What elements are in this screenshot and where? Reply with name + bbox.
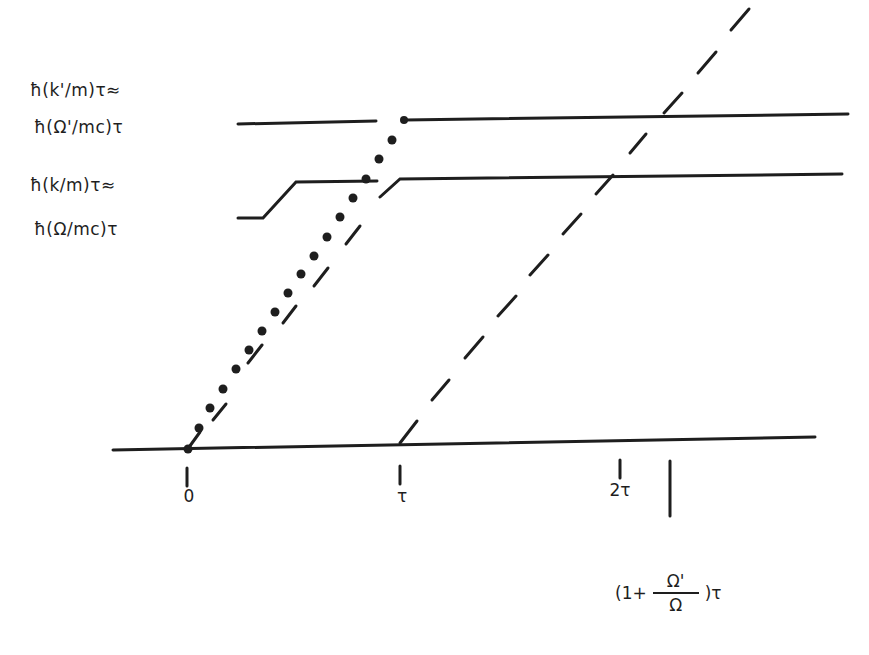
lower-level-label-line1: ħ(k/m)τ≈ [30,175,116,195]
marker-fraction-numerator: Ω' [667,570,685,592]
tick-label-two-tau: 2τ [600,480,640,500]
marker-fraction: Ω' Ω [653,570,699,616]
lower-level-label-line2: ħ(Ω/mc)τ [34,219,118,239]
dotted-ramp-from-zero [184,136,397,454]
marker-fraction-denominator: Ω [669,594,682,616]
marker-label-prefix: (1+ [615,583,647,603]
figure: ħ(k'/m)τ≈ ħ(Ω'/mc)τ ħ(k/m)τ≈ ħ(Ω/mc)τ 0 … [0,0,869,655]
diagram-canvas [0,0,869,655]
marker-label-suffix: )τ [705,583,722,603]
upper-level-endpoint-dot [400,116,408,124]
dashed-ramp-from-zero [187,226,360,450]
tick-label-zero: 0 [169,486,209,506]
time-axis-line [113,437,815,450]
dashed-ramp-from-tau [400,9,749,443]
upper-level-label-line2: ħ(Ω'/mc)τ [34,117,123,137]
upper-level-right-line [405,114,848,120]
upper-level-label-line1: ħ(k'/m)τ≈ [30,80,121,100]
marker-label-one-plus-ratio-tau: (1+ Ω' Ω )τ [615,570,722,616]
tick-label-tau: τ [382,486,422,506]
upper-level-left-line [238,121,376,124]
